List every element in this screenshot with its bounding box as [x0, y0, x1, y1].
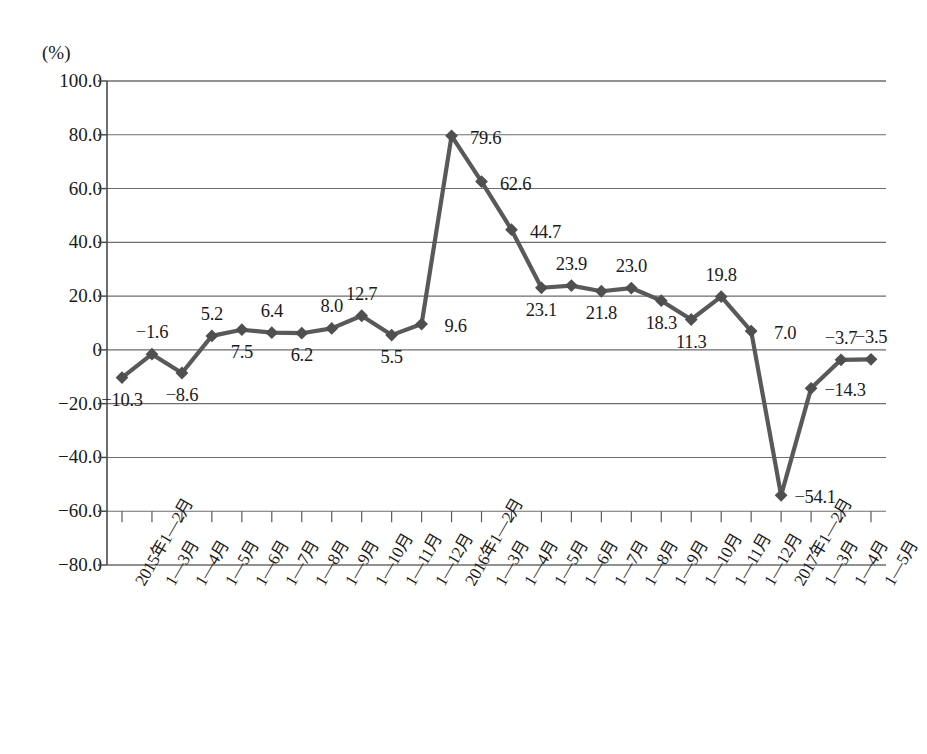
- chart-figure: (%) 100.080.060.040.020.00−20.0−40.0−60.…: [0, 0, 927, 754]
- x-axis-tick-labels: 2015年1—2月1—3月1—4月1—5月1—6月1—7月1—8月1—9月1—1…: [0, 0, 927, 754]
